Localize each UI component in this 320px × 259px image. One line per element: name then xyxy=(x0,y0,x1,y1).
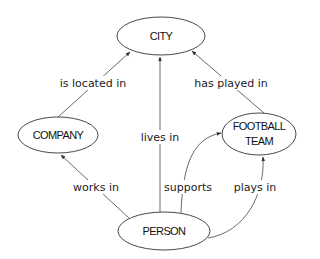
edge-label-works-in: works in xyxy=(73,181,119,194)
node-football-team: FOOTBALL TEAM xyxy=(222,113,296,155)
diagram-canvas: is located in has played in lives in wor… xyxy=(0,0,320,259)
edge-label-is-located-in: is located in xyxy=(60,77,126,90)
node-company: COMPANY xyxy=(18,117,98,153)
node-label-company: COMPANY xyxy=(33,129,85,141)
node-person: PERSON xyxy=(118,212,210,250)
edge-label-has-played-in: has played in xyxy=(194,77,268,90)
edge-label-supports: supports xyxy=(164,181,212,194)
edge-label-plays-in: plays in xyxy=(234,181,277,194)
node-label-city: CITY xyxy=(150,30,174,42)
edge-supports xyxy=(181,133,221,213)
node-label-person: PERSON xyxy=(143,225,187,237)
edge-plays-in xyxy=(208,157,263,238)
node-label-team: TEAM xyxy=(245,135,274,147)
edge-line xyxy=(208,157,263,238)
node-label-football: FOOTBALL xyxy=(233,120,286,132)
edge-line xyxy=(181,133,221,213)
node-city: CITY xyxy=(117,17,205,55)
edge-label-lives-in: lives in xyxy=(141,131,180,144)
